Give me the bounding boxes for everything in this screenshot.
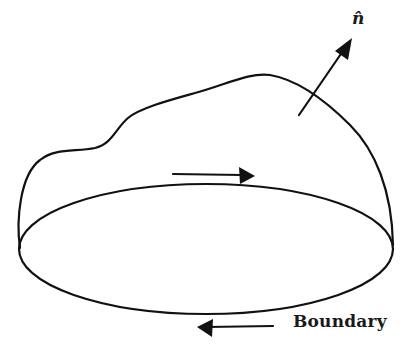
- normal-vector-label: n̂: [352, 8, 364, 28]
- surface-outline: [19, 75, 393, 248]
- boundary-ellipse: [19, 184, 393, 314]
- diagram-canvas: [0, 0, 418, 358]
- boundary-label: Boundary: [293, 311, 387, 331]
- surface-boundary-diagram: n̂ Boundary: [0, 0, 418, 358]
- circulation-arrow-top: [173, 167, 255, 184]
- circulation-arrow-bottom: [197, 319, 273, 337]
